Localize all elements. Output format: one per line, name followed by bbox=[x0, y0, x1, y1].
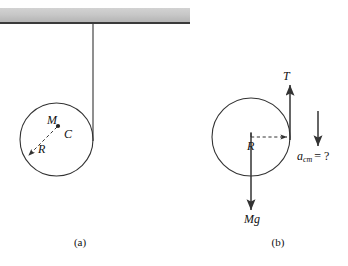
panel-a-graphics bbox=[20, 24, 93, 176]
caption-panel-b: (b) bbox=[258, 236, 298, 248]
panel-b-graphics bbox=[212, 85, 318, 210]
tension-label: T bbox=[283, 70, 290, 82]
weight-label: Mg bbox=[244, 213, 260, 225]
mass-label-a: M bbox=[47, 114, 57, 126]
acceleration-label: acm= ? bbox=[297, 150, 329, 162]
radius-label-b: R bbox=[247, 140, 254, 152]
figure-vector-layer bbox=[0, 0, 348, 266]
radius-label-a: R bbox=[38, 143, 45, 155]
caption-panel-a: (a) bbox=[60, 236, 100, 248]
physics-figure: M C R T R Mg acm= ? (a) (b) bbox=[0, 0, 348, 266]
acceleration-subscript: cm bbox=[303, 155, 312, 164]
center-label-a: C bbox=[64, 128, 72, 140]
acceleration-value: = ? bbox=[314, 149, 329, 163]
